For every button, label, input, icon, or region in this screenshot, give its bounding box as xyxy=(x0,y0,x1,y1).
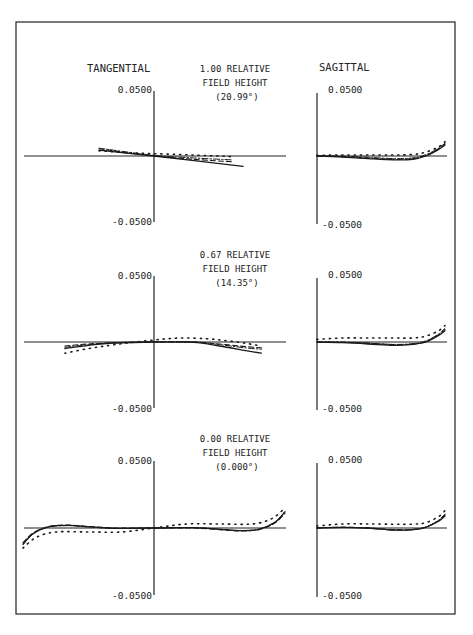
panel-2-sag-ytick-bottom: -0.0500 xyxy=(322,403,362,414)
tangential-column-title: TANGENTIAL xyxy=(87,62,150,74)
panel-1-sagittal-series-dash xyxy=(317,144,445,160)
panel-2-tan-ytick-top: 0.0500 xyxy=(118,270,153,281)
panel-3: 0.00 RELATIVE FIELD HEIGHT (0.000°) 0.05… xyxy=(112,434,363,601)
panel-2-tan-ytick-bottom: -0.0500 xyxy=(112,403,152,414)
sagittal-column-title: SAGITTAL xyxy=(319,61,370,73)
series-layer xyxy=(23,142,445,548)
panel-1-sagittal-series-solid xyxy=(317,145,445,160)
panel-3-field-label-line-2: FIELD HEIGHT xyxy=(202,448,268,458)
panel-2-tangential-series-solid xyxy=(65,342,262,353)
panel-2-sagittal-series-dot xyxy=(317,326,445,340)
panel-1-tangential-series-dashdot xyxy=(99,148,233,160)
panel-1-field-label-line-3: (20.99°) xyxy=(215,92,258,102)
ray-fan-chart: TANGENTIAL SAGITTAL 1.00 RELATIVE FIELD … xyxy=(0,0,473,635)
panel-1-tan-ytick-bottom: -0.0500 xyxy=(112,216,152,227)
panel-3-field-label-line-1: 0.00 RELATIVE xyxy=(200,434,270,444)
panel-3-field-label-line-3: (0.000°) xyxy=(215,462,258,472)
panel-2: 0.67 RELATIVE FIELD HEIGHT (14.35°) 0.05… xyxy=(112,250,363,414)
panel-1-tangential-series-solid xyxy=(99,150,243,166)
panel-2-sag-ytick-top: 0.0500 xyxy=(328,269,363,280)
panel-2-tangential-series-dot xyxy=(65,338,262,353)
panel-3-tan-ytick-top: 0.0500 xyxy=(118,455,153,466)
panel-2-field-label-line-2: FIELD HEIGHT xyxy=(202,264,268,274)
panel-1-field-label-line-2: FIELD HEIGHT xyxy=(202,78,268,88)
panel-2-field-label-line-1: 0.67 RELATIVE xyxy=(200,250,270,260)
panel-3-tan-ytick-bottom: -0.0500 xyxy=(112,590,152,601)
panel-3-sagittal-series-dot xyxy=(317,511,445,526)
panel-1-sag-ytick-top: 0.0500 xyxy=(328,84,363,95)
panel-1-field-label-line-1: 1.00 RELATIVE xyxy=(200,64,270,74)
panel-2-field-label-line-3: (14.35°) xyxy=(215,278,258,288)
panel-1-sag-ytick-bottom: -0.0500 xyxy=(322,219,362,230)
chart-frame xyxy=(16,22,455,614)
panel-3-sag-ytick-bottom: -0.0500 xyxy=(322,590,362,601)
panel-1-sagittal-series-dot xyxy=(317,142,445,156)
panel-3-sag-ytick-top: 0.0500 xyxy=(328,454,363,465)
panel-1-tan-ytick-top: 0.0500 xyxy=(118,84,153,95)
panel-1: 1.00 RELATIVE FIELD HEIGHT (20.99°) 0.05… xyxy=(112,64,363,230)
